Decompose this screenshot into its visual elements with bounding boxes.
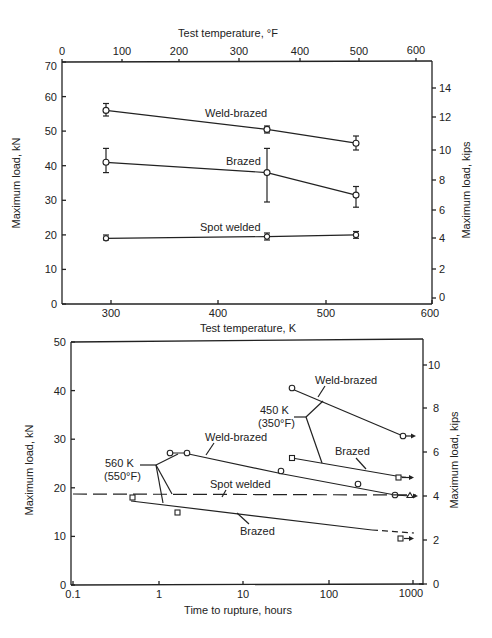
svg-text:2: 2 — [433, 534, 439, 546]
series-brazed: Brazed — [103, 148, 359, 207]
bottom-bottom-axis — [71, 584, 423, 585]
svg-text:12: 12 — [439, 111, 451, 123]
bottom-time-ticks: 0.1 1 10 100 1000 — [65, 580, 423, 600]
svg-text:10: 10 — [45, 263, 57, 275]
svg-text:300: 300 — [102, 307, 120, 319]
svg-text:60: 60 — [45, 91, 57, 103]
svg-text:0: 0 — [51, 298, 57, 310]
svg-text:10: 10 — [439, 144, 451, 156]
tick-label: 100 — [113, 45, 131, 57]
svg-text:10: 10 — [54, 530, 66, 542]
top-y2-title: Maximum load, kips — [460, 141, 472, 239]
svg-text:40: 40 — [54, 385, 66, 397]
annotation-560k: 560 K (550°F) — [104, 454, 178, 503]
svg-text:50: 50 — [54, 336, 66, 348]
series-brazed-560k: Brazed — [130, 495, 414, 541]
label-brazed-560: Brazed — [240, 525, 275, 537]
top-f-ticks: 0 100 200 300 400 500 600 — [59, 44, 425, 62]
bottom-y2-title: Maximum load, kips — [448, 411, 460, 509]
svg-text:2: 2 — [439, 263, 445, 275]
series-weld-brazed-450k: Weld-brazed — [289, 374, 416, 439]
svg-text:100: 100 — [320, 588, 338, 600]
svg-text:20: 20 — [54, 482, 66, 494]
label-brazed: Brazed — [226, 155, 261, 167]
tick-label: 400 — [291, 45, 309, 57]
top-kn-ticks: 0 10 20 30 40 50 60 70 — [45, 60, 66, 310]
label-spot-welded: Spot welded — [200, 221, 261, 233]
svg-text:70: 70 — [45, 60, 57, 72]
svg-text:50: 50 — [45, 125, 57, 137]
top-kips-ticks: 0 2 4 6 8 10 12 14 — [432, 82, 451, 303]
svg-text:6: 6 — [439, 204, 445, 216]
svg-text:20: 20 — [45, 229, 57, 241]
svg-text:4: 4 — [439, 232, 445, 244]
svg-text:1000: 1000 — [399, 587, 423, 599]
top-y-title: Maximum load, kN — [10, 137, 22, 228]
tick-label: 200 — [170, 45, 188, 57]
svg-text:1: 1 — [156, 588, 162, 600]
series-brazed-450k: Brazed — [290, 445, 415, 480]
svg-text:14: 14 — [439, 82, 451, 94]
label-spot-welded-bottom: Spot welded — [210, 478, 271, 490]
svg-text:400: 400 — [209, 307, 227, 319]
series-weld-brazed: Weld-brazed — [103, 104, 359, 151]
svg-text:500: 500 — [317, 307, 335, 319]
top-k-ticks: 300 400 500 600 — [102, 300, 439, 319]
bottom-kips-ticks: 0 2 4 6 8 10 — [419, 359, 440, 590]
svg-text:10: 10 — [428, 359, 440, 371]
label-weld-brazed: Weld-brazed — [205, 107, 267, 119]
svg-text:8: 8 — [433, 402, 439, 414]
svg-text:30: 30 — [54, 433, 66, 445]
svg-text:8: 8 — [439, 174, 445, 186]
annotation-450k: 450 K (350°F) — [258, 401, 323, 463]
label-weld-brazed-450: Weld-brazed — [315, 374, 377, 386]
top-chart: 0 100 200 300 400 500 600 Test temperatu… — [10, 27, 472, 334]
svg-text:450 K: 450 K — [260, 404, 289, 416]
svg-text:30: 30 — [45, 194, 57, 206]
bottom-kn-ticks: 0 10 20 30 40 50 — [54, 336, 75, 591]
figure: 0 100 200 300 400 500 600 Test temperatu… — [0, 0, 492, 638]
svg-text:4: 4 — [433, 490, 439, 502]
top-x-title: Test temperature, K — [200, 322, 297, 334]
tick-label: 600 — [407, 44, 425, 56]
svg-text:0: 0 — [433, 578, 439, 590]
bottom-y-title: Maximum load, kN — [23, 424, 35, 515]
top-x2-title: Test temperature, °F — [178, 27, 278, 39]
svg-text:0: 0 — [439, 291, 445, 303]
series-weld-brazed-560k: Weld-brazed — [167, 431, 418, 499]
tick-label: 500 — [350, 45, 368, 57]
svg-text:(550°F): (550°F) — [104, 470, 141, 482]
label-brazed-450: Brazed — [335, 445, 370, 457]
svg-text:0.1: 0.1 — [65, 588, 80, 600]
series-spot-welded: Spot welded — [103, 221, 359, 241]
svg-text:6: 6 — [433, 446, 439, 458]
svg-text:560 K: 560 K — [105, 457, 134, 469]
label-weld-brazed-560: Weld-brazed — [205, 431, 267, 443]
bottom-chart: 0 10 20 30 40 50 Maximum load, kN 0 2 4 … — [23, 336, 460, 616]
svg-text:10: 10 — [237, 588, 249, 600]
bottom-top-axis — [71, 339, 423, 342]
tick-label: 0 — [59, 45, 65, 57]
bottom-x-title: Time to rupture, hours — [184, 604, 292, 616]
tick-label: 300 — [230, 45, 248, 57]
top-top-axis — [62, 61, 432, 62]
svg-text:40: 40 — [45, 160, 57, 172]
svg-text:(350°F): (350°F) — [258, 417, 295, 429]
svg-text:600: 600 — [421, 307, 439, 319]
